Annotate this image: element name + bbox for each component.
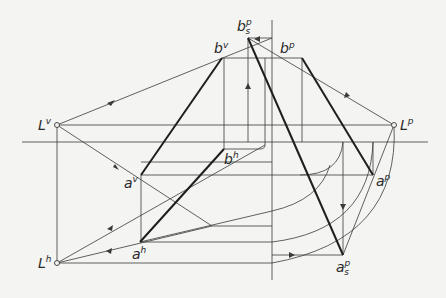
arc-outer	[272, 125, 394, 263]
point-Lp	[392, 123, 397, 128]
label-bv: bv	[214, 40, 229, 56]
label-asp: aps	[336, 258, 351, 277]
arrow-icon	[107, 100, 115, 106]
perspective-construction-diagram: Lv Lp Lh bv bp bps bh av ap ah aps	[0, 0, 446, 298]
ray-Lv-bv	[57, 38, 272, 125]
label-ah: ah	[132, 245, 147, 262]
label-Lp: Lp	[400, 116, 414, 133]
arc-middle	[272, 142, 373, 242]
arrow-icon	[289, 252, 295, 258]
arrow-icon	[245, 83, 251, 89]
ray-Lp-bp	[248, 38, 394, 125]
point-Lv	[55, 123, 60, 128]
label-bh: bh	[224, 150, 239, 167]
label-bsp: bps	[237, 17, 252, 36]
label-bp: bp	[280, 40, 295, 56]
arrow-icon	[340, 204, 346, 210]
point-Lh	[55, 261, 60, 266]
arrow-icon	[107, 225, 113, 231]
segment-av-bv	[141, 58, 222, 175]
arrow-icon	[254, 36, 260, 42]
line-bp-corner	[224, 58, 265, 149]
label-Lv: Lv	[38, 116, 52, 133]
label-ap: ap	[376, 172, 391, 189]
label-Lh: Lh	[38, 254, 52, 271]
line-Lp-asp	[343, 125, 394, 255]
segment-ah-bh	[140, 149, 224, 242]
ray-Lh-bh	[57, 145, 265, 263]
ray-Lh-curve	[140, 165, 330, 242]
arrow-icon	[106, 248, 112, 254]
label-av: av	[124, 174, 139, 191]
segment-ap-bp	[302, 58, 373, 175]
